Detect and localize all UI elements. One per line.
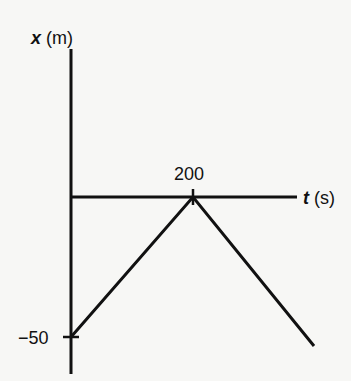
position-time-graph: x (m) t (s) 200 −50 [0, 0, 351, 381]
y-tick-label: −50 [18, 328, 49, 348]
x-axis-label: t (s) [303, 188, 335, 208]
data-line [71, 197, 314, 346]
y-axis-label: x (m) [30, 28, 73, 48]
x-tick-label: 200 [174, 164, 204, 184]
